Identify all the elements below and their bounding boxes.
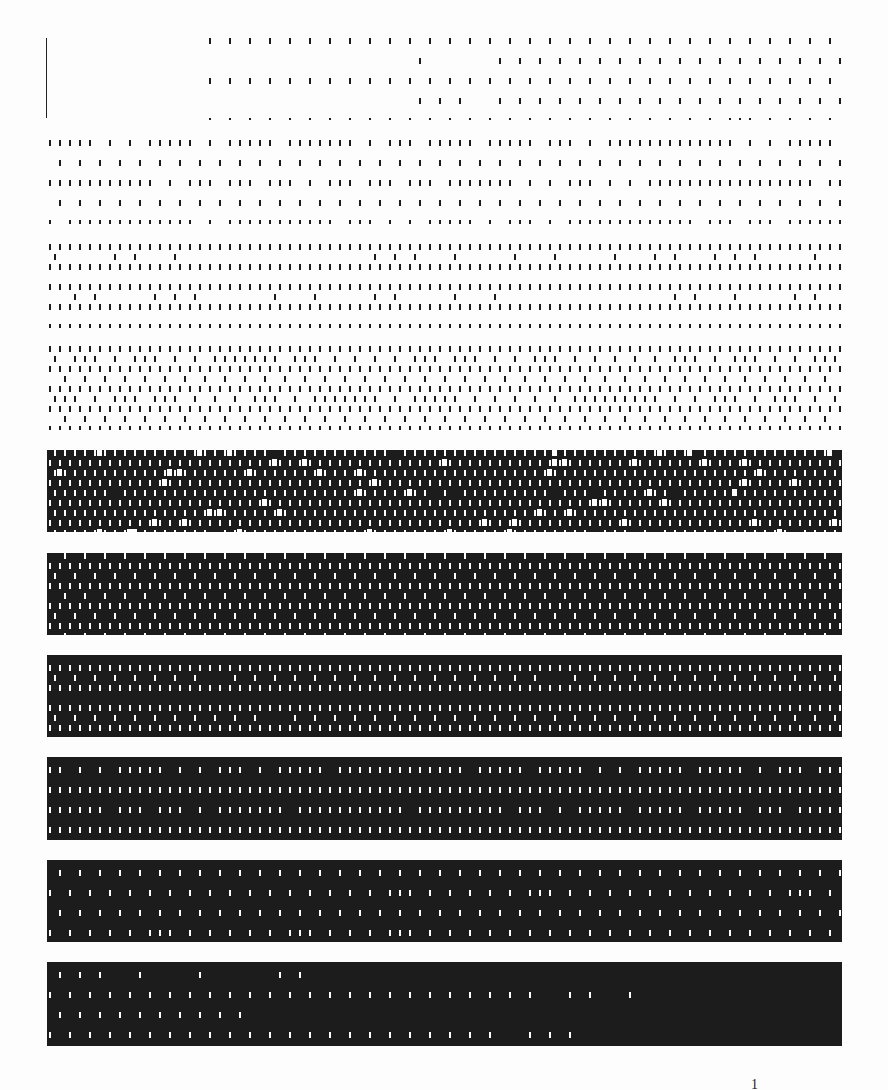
- page-number: 1: [751, 1078, 758, 1090]
- halftone-band-5: [47, 450, 845, 532]
- halftone-band-4: [47, 346, 845, 430]
- halftone-band-3: [47, 244, 845, 328]
- halftone-band-7: [47, 655, 845, 737]
- halftone-band-10: [47, 962, 845, 1046]
- halftone-band-9: [47, 860, 845, 942]
- document-page: 1: [0, 0, 888, 1090]
- halftone-band-6: [47, 553, 845, 635]
- halftone-band-2: [47, 140, 845, 224]
- halftone-band-8: [47, 757, 845, 840]
- halftone-band-1: [47, 38, 845, 120]
